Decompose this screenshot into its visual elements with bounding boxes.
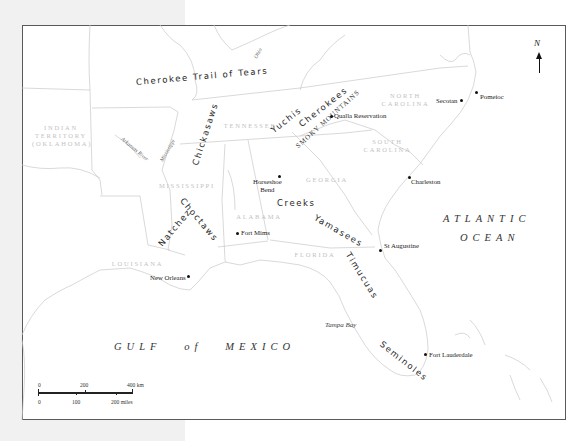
water-label-atlantic-2: OCEAN (460, 232, 519, 243)
city-label-fort-mims: Fort Mims (241, 229, 270, 237)
state-label-florida: FLORIDA (290, 251, 340, 259)
border-kansas-ok (22, 88, 90, 90)
state-label-georgia: GEORGIA (302, 176, 352, 184)
north-label: N (534, 38, 540, 48)
north-arrow-shaft (539, 58, 540, 73)
scale-tick (116, 392, 117, 395)
city-label-secotan: Secotan (436, 97, 458, 105)
scale-bar: 0 200 400 km 0 100 200 miles (36, 380, 176, 410)
city-marker-fort-mims (236, 232, 239, 235)
state-label-tennessee: TENNESSEE (220, 122, 280, 130)
scale-km-400: 400 km (127, 382, 144, 388)
city-marker-secotan (460, 99, 463, 102)
city-label-charleston: Charleston (411, 178, 440, 186)
city-label-qualla: Qualla Reservation (334, 112, 386, 120)
water-label-atlantic-1: ATLANTIC (443, 213, 530, 224)
scale-km-200: 200 (80, 382, 88, 388)
city-marker-st-augustine (379, 249, 382, 252)
state-label-indian-territory: INDIANTERRITORY(OKLAHOMA) (32, 124, 90, 148)
scale-mi-100: 100 (72, 399, 80, 405)
border-mo-ky (160, 25, 197, 100)
scale-tick (38, 389, 39, 396)
scale-tick (132, 389, 133, 394)
border-ky-wv (300, 35, 345, 90)
state-label-alabama: ALABAMA (234, 213, 284, 221)
city-label-pomeioc: Pomeioc (480, 93, 504, 101)
bahamas (455, 320, 552, 402)
tribe-label-creeks: Creeks (277, 198, 316, 208)
water-label-tampa: Tampa Bay (325, 321, 356, 329)
border-tx-ok (22, 165, 100, 178)
city-label-st-augustine: St Augustine (384, 242, 419, 250)
scale-mi-200: 200 miles (111, 399, 133, 405)
water-label-gulf: GULF of MEXICO (114, 341, 295, 352)
tx-coast (22, 340, 25, 420)
alabama-river-line (228, 170, 235, 210)
scale-tick (85, 390, 86, 393)
ohio-river (214, 25, 290, 50)
city-marker-fort-lauderdale (424, 353, 427, 356)
coastline (22, 25, 476, 376)
state-label-south-carolina: SOUTHCAROLINA (360, 138, 415, 154)
scale-mi-0: 0 (38, 399, 41, 405)
city-marker-pomeioc (475, 91, 478, 94)
city-label-new-orleans: New Orleans (150, 274, 186, 282)
border-ms-al (222, 144, 226, 262)
city-marker-qualla (330, 115, 333, 118)
chesapeake (440, 53, 470, 61)
scale-tick (76, 392, 77, 395)
city-marker-new-orleans (187, 275, 190, 278)
state-label-mississippi: MISSISSIPPI (158, 182, 216, 190)
city-label-horseshoe: HorseshoeBend (253, 178, 282, 194)
state-label-north-carolina: NORTHCAROLINA (378, 92, 433, 108)
state-label-louisiana: LOUISIANA (110, 260, 165, 268)
city-label-fort-lauderdale: Fort Lauderdale (429, 351, 473, 359)
border-ok-ark (89, 25, 102, 195)
north-arrow: N (532, 38, 544, 78)
border-al-fl (218, 241, 268, 247)
scale-km-0: 0 (38, 382, 41, 388)
